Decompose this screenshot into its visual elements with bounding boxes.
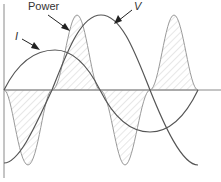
voltage-label: V [134, 1, 141, 12]
power-lobe-positive-2 [150, 15, 198, 90]
voltage-label-arrow [114, 10, 132, 24]
power-waveform-diagram: Power V I [0, 0, 221, 182]
power-label: Power [28, 1, 59, 12]
current-label: I [15, 31, 18, 42]
power-label-arrow [48, 15, 70, 31]
waveform-plot [0, 0, 221, 182]
power-lobe-negative-2 [100, 90, 150, 165]
current-label-arrow [22, 39, 40, 50]
power-lobe-positive-1 [52, 15, 100, 90]
power-lobe-negative-1 [4, 90, 52, 165]
